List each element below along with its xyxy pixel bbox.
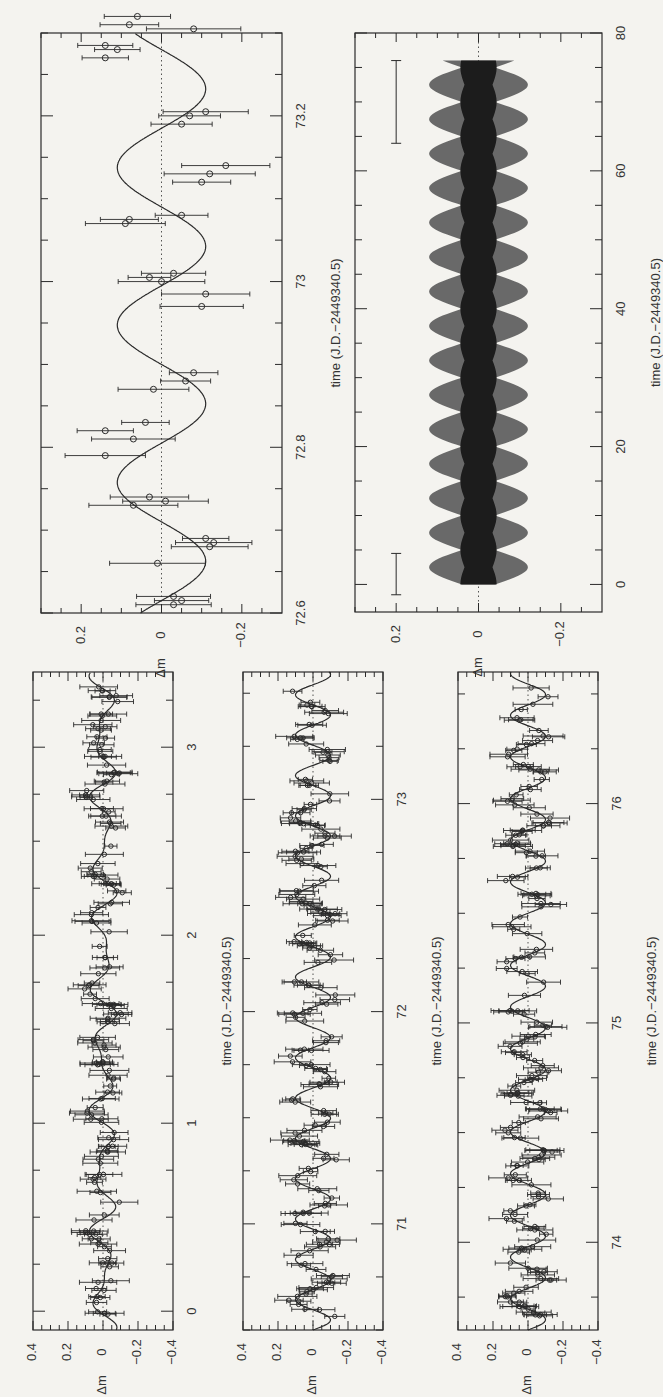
fit-curve [117, 34, 205, 613]
dm-tick-label: 0 [153, 631, 168, 638]
time-tick-label: 76 [609, 796, 624, 810]
time-tick-label: 71 [394, 1217, 409, 1231]
chart-panel-panel-lc-71-73: 0.40.20−0.2−0.4Δm717273time (J.D.−244934… [234, 672, 444, 1395]
time-axis-title: time (J.D.−2449340.5) [429, 937, 444, 1066]
dm-axis-title: Δm [94, 1375, 109, 1395]
time-tick-label: 73.2 [293, 103, 308, 128]
dm-tick-label: 0.2 [269, 1343, 284, 1361]
time-tick-label: 72.6 [293, 600, 308, 625]
time-tick-label: 0 [184, 1308, 199, 1315]
dm-tick-label: 0.2 [484, 1343, 499, 1361]
chart-panel-panel-lc-74-76: 0.40.20−0.2−0.4Δm747576time (J.D.−244934… [449, 672, 659, 1395]
time-tick-label: 80 [613, 26, 628, 40]
dm-tick-label: 0.2 [388, 625, 403, 643]
dm-tick-label: −0.4 [164, 1339, 179, 1365]
dm-axis-title: Δm [519, 1375, 534, 1395]
dm-tick-label: 0.2 [59, 1343, 74, 1361]
dm-tick-label: 0.4 [234, 1343, 249, 1361]
time-tick-label: 40 [613, 301, 628, 315]
time-tick-label: 0 [613, 581, 628, 588]
dm-tick-label: −0.2 [339, 1339, 354, 1365]
dm-tick-label: 0 [304, 1348, 319, 1355]
envelope-inner-core [460, 61, 496, 585]
time-axis-title: time (J.D.−2449340.5) [328, 259, 343, 388]
time-tick-label: 2 [184, 932, 199, 939]
dm-axis-title: Δm [304, 1375, 319, 1395]
dm-tick-label: −0.2 [233, 622, 248, 648]
dm-tick-label: 0.4 [24, 1343, 39, 1361]
dm-tick-label: −0.2 [552, 621, 567, 647]
time-tick-label: 73 [293, 274, 308, 288]
time-tick-label: 75 [609, 1016, 624, 1030]
time-tick-label: 60 [613, 164, 628, 178]
dm-tick-label: 0 [94, 1348, 109, 1355]
dm-tick-label: −0.2 [554, 1339, 569, 1365]
dm-tick-label: −0.2 [129, 1339, 144, 1365]
dm-tick-label: −0.4 [374, 1339, 389, 1365]
time-tick-label: 73 [394, 792, 409, 806]
chart-panel-panel-detail: 0.20−0.2Δm72.672.87373.2time (J.D.−24493… [41, 13, 343, 677]
time-tick-label: 1 [184, 1120, 199, 1127]
time-tick-label: 72 [394, 1004, 409, 1018]
dm-axis-title: Δm [470, 657, 485, 677]
time-axis-title: time (J.D.−2449340.5) [644, 937, 659, 1066]
figure-canvas: 0.20−0.2Δm72.672.87373.2time (J.D.−24493… [0, 0, 663, 1397]
time-axis-title: time (J.D.−2449340.5) [648, 258, 663, 387]
dm-tick-label: −0.4 [589, 1339, 604, 1365]
dm-tick-label: 0 [470, 630, 485, 637]
time-tick-label: 3 [184, 744, 199, 751]
time-axis-title: time (J.D.−2449340.5) [219, 937, 234, 1066]
dm-tick-label: 0.4 [449, 1343, 464, 1361]
dm-tick-label: 0 [519, 1348, 534, 1355]
dm-tick-label: 0.2 [73, 626, 88, 644]
chart-panel-panel-envelope: 0.20−0.2Δm020406080time (J.D.−2449340.5) [355, 26, 663, 677]
time-tick-label: 72.8 [293, 435, 308, 460]
chart-panel-panel-lc-0-3: 0.40.20−0.2−0.4Δm0123time (J.D.−2449340.… [24, 672, 234, 1395]
time-tick-label: 74 [609, 1235, 624, 1249]
time-tick-label: 20 [613, 439, 628, 453]
